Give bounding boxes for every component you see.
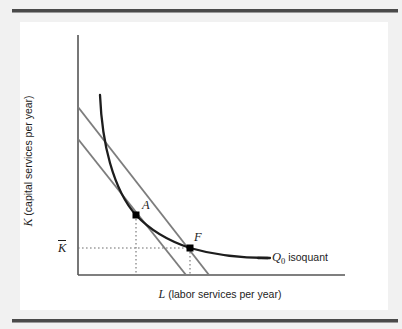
isoquant-curve — [100, 95, 268, 258]
kbar-variable: K — [58, 240, 66, 255]
point-a-marker — [133, 212, 140, 219]
isoquant-label-text: isoquant — [285, 251, 328, 263]
kbar-tick-label: K — [58, 240, 66, 255]
x-axis-label: L (labor services per year) — [120, 288, 320, 300]
isocost-line-lower — [78, 139, 186, 275]
x-axis-description: (labor services per year) — [165, 288, 281, 300]
isoquant-curve-label: Q0 isoquant — [272, 251, 328, 266]
point-f-label: F — [194, 231, 202, 244]
point-a-label: A — [142, 199, 150, 212]
isoquant-plot — [0, 0, 402, 329]
isoquant-q-symbol: Q — [272, 250, 281, 264]
figure-root: K (capital services per year) L (labor s… — [0, 0, 402, 329]
point-f-marker — [187, 245, 194, 252]
bottom-rule-shadow — [12, 322, 398, 323]
y-axis-variable: K — [21, 219, 35, 227]
y-axis-label: K (capital services per year) — [22, 81, 34, 241]
y-axis-description: (capital services per year) — [22, 95, 34, 218]
